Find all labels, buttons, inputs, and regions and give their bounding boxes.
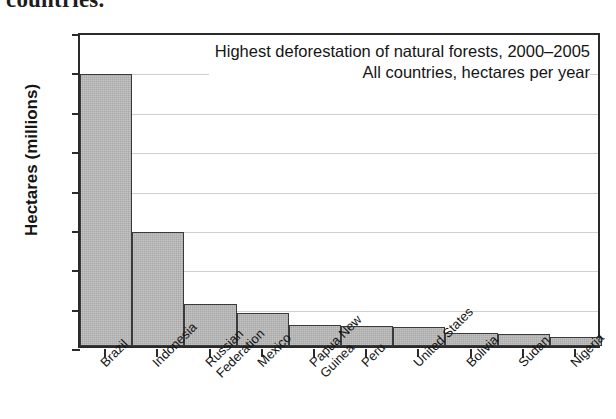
y-tick-mark [72, 231, 80, 233]
y-tick-mark [72, 192, 80, 194]
y-tick-mark [72, 73, 80, 75]
chart-subtitle: All countries, hectares per year [215, 62, 590, 83]
y-axis-title: Hectares (millions) [22, 60, 42, 260]
y-tick-mark [72, 270, 80, 272]
y-tick-mark [72, 113, 80, 115]
y-tick-mark [72, 310, 80, 312]
plot-area: 00.51.01.52.02.53.03.54.0 Highest defore… [78, 33, 600, 348]
bar [132, 232, 184, 346]
y-tick-mark [72, 152, 80, 154]
bar [80, 74, 132, 346]
chart-title-block: Highest deforestation of natural forests… [209, 41, 590, 84]
chart-title: Highest deforestation of natural forests… [215, 42, 590, 60]
y-tick-mark [72, 349, 80, 351]
bar-chart-figure: Hectares (millions) 00.51.01.52.02.53.03… [0, 0, 616, 419]
y-tick-mark [72, 34, 80, 36]
